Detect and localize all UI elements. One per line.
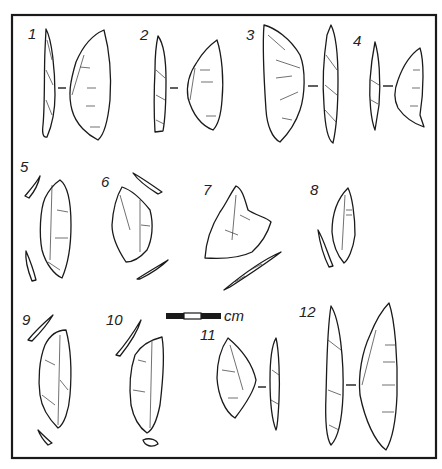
- label-3: 3: [246, 26, 255, 43]
- label-12: 12: [299, 303, 316, 320]
- artifact-8: [318, 188, 355, 267]
- label-4: 4: [353, 32, 361, 49]
- artifact-10: [116, 320, 163, 446]
- artifact-1: [43, 29, 111, 140]
- artifact-4: [370, 42, 424, 130]
- artifact-12: [326, 303, 398, 450]
- label-10: 10: [106, 311, 123, 328]
- label-5: 5: [20, 158, 29, 175]
- artifact-7: [205, 186, 281, 290]
- artifact-plate: 1 2 3 4 5 6 7 8 9 10 11 12 cm: [0, 0, 442, 469]
- scale-bar: cm: [166, 307, 244, 324]
- label-9: 9: [22, 311, 31, 328]
- label-1: 1: [28, 25, 36, 42]
- artifact-5: [25, 176, 71, 281]
- label-11: 11: [200, 326, 216, 343]
- artifact-6: [112, 173, 168, 279]
- artifact-3: [263, 25, 338, 143]
- label-2: 2: [139, 26, 149, 43]
- scale-unit: cm: [224, 307, 244, 324]
- label-6: 6: [101, 173, 110, 190]
- artifact-11: [217, 338, 279, 430]
- label-7: 7: [203, 181, 212, 198]
- artifact-9: [28, 315, 71, 445]
- label-8: 8: [310, 181, 319, 198]
- artifact-2: [154, 36, 223, 132]
